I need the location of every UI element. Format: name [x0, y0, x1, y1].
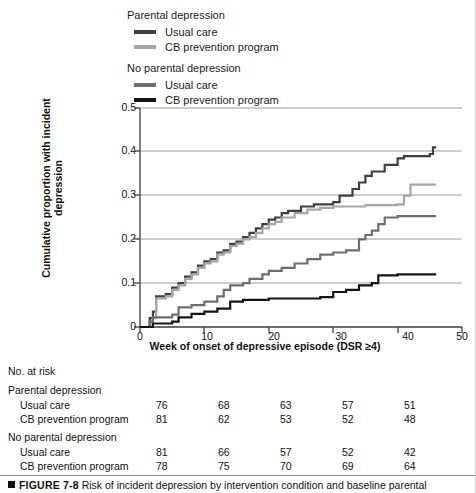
- caption-divider: [0, 475, 476, 476]
- table-row: CB prevention program 81 62 53 52 48: [8, 412, 470, 426]
- risk-row-label: CB prevention program: [8, 459, 156, 473]
- risk-cell: 62: [218, 412, 280, 426]
- risk-cell: 76: [156, 398, 218, 412]
- risk-section-title: Parental depression: [8, 383, 470, 398]
- risk-table-title: No. at risk: [8, 364, 470, 379]
- figure-caption: FIGURE 7-8 Risk of incident depression b…: [8, 479, 476, 493]
- legend-group-title: No parental depression: [127, 61, 279, 75]
- risk-cell: 64: [404, 459, 466, 473]
- grid-lines: [140, 108, 462, 283]
- numbers-at-risk-table: No. at risk Parental depression Usual ca…: [8, 364, 470, 473]
- series-line-2: [140, 216, 436, 327]
- risk-cell: 42: [404, 445, 466, 459]
- risk-cell: 57: [342, 398, 404, 412]
- legend-spacer: [127, 54, 279, 61]
- risk-cell: 66: [218, 445, 280, 459]
- risk-row-label: Usual care: [8, 445, 156, 459]
- series-line-0: [140, 147, 436, 327]
- table-row: Usual care 81 66 57 52 42: [8, 445, 470, 459]
- figure-number: FIGURE 7-8: [19, 479, 79, 491]
- risk-cell: 48: [404, 412, 466, 426]
- risk-cell: 52: [342, 445, 404, 459]
- risk-cell: 81: [156, 445, 218, 459]
- legend-swatch-line-icon: [134, 45, 156, 49]
- axis-lines: [140, 108, 462, 327]
- legend-group-title: Parental depression: [127, 8, 279, 22]
- risk-cell: 51: [404, 398, 466, 412]
- risk-cell: 57: [280, 445, 342, 459]
- risk-row-label: CB prevention program: [8, 412, 156, 426]
- risk-cell: 75: [218, 459, 280, 473]
- chart-canvas: [0, 96, 476, 346]
- risk-cell: 68: [218, 398, 280, 412]
- legend-swatch-line-icon: [134, 30, 156, 34]
- legend-item-label: CB prevention program: [165, 40, 279, 54]
- data-series-layer: [140, 147, 436, 327]
- series-line-1: [140, 185, 436, 327]
- legend-item-label: Usual care: [165, 25, 218, 39]
- plot-area: Cumulative proportion with incident depr…: [0, 96, 476, 346]
- legend-item-npd-usual-care[interactable]: Usual care: [127, 77, 279, 92]
- risk-cell: 63: [280, 398, 342, 412]
- risk-cell: 52: [342, 412, 404, 426]
- risk-cell: 69: [342, 459, 404, 473]
- legend-swatch-line-icon: [134, 83, 156, 87]
- square-bullet-icon: [8, 481, 15, 488]
- risk-cell: 70: [280, 459, 342, 473]
- risk-cell: 78: [156, 459, 218, 473]
- chart-legend: Parental depression Usual care CB preven…: [127, 8, 279, 107]
- legend-group-parental-depression: Parental depression Usual care CB preven…: [127, 8, 279, 54]
- risk-cell: 53: [280, 412, 342, 426]
- risk-row-label: Usual care: [8, 398, 156, 412]
- risk-section-title: No parental depression: [8, 430, 470, 445]
- table-row: Usual care 76 68 63 57 51: [8, 398, 470, 412]
- figure-root: Parental depression Usual care CB preven…: [0, 0, 476, 493]
- legend-item-label: Usual care: [165, 78, 218, 92]
- risk-cell: 81: [156, 412, 218, 426]
- legend-item-pd-usual-care[interactable]: Usual care: [127, 24, 279, 39]
- table-row: CB prevention program 78 75 70 69 64: [8, 459, 470, 473]
- figure-caption-text: Risk of incident depression by intervent…: [82, 479, 427, 491]
- legend-item-pd-cb-program[interactable]: CB prevention program: [127, 39, 279, 54]
